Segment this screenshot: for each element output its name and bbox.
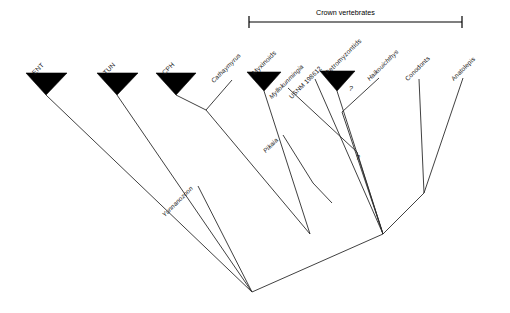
clade-triangle-tun (97, 73, 138, 95)
crown-vertebrates-bracket (249, 16, 462, 28)
uncertainty-mark-lower: ? (356, 154, 360, 161)
clade-triangle-cph (156, 73, 196, 95)
branch-lines (46, 78, 463, 292)
cladogram-canvas (0, 0, 510, 313)
cladogram-figure: Crown vertebrates ENT TUN CPH Myxinoids … (0, 0, 510, 313)
crown-vertebrates-label: Crown vertebrates (316, 8, 375, 17)
clade-triangle-ent (26, 73, 67, 95)
uncertainty-mark-petromyzontids: ? (349, 85, 353, 92)
